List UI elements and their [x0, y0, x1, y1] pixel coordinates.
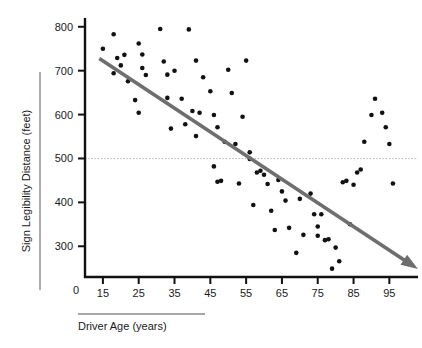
data-point [315, 224, 320, 229]
data-point [247, 150, 252, 155]
x-tick-label: 35 [168, 287, 180, 299]
data-point [244, 58, 249, 63]
data-point [219, 179, 224, 184]
data-point [272, 228, 277, 233]
data-point [140, 52, 145, 57]
chart-page: 300400500600700800 152535455565758595 0 … [0, 0, 422, 348]
data-point [101, 46, 106, 51]
x-tick-label: 15 [97, 287, 109, 299]
data-point [194, 134, 199, 139]
y-tick-label: 300 [55, 240, 73, 252]
data-point [283, 198, 288, 203]
data-point [111, 71, 116, 76]
data-point [230, 91, 235, 96]
y-tick-label: 800 [55, 21, 73, 33]
y-tick-label: 500 [55, 152, 73, 164]
data-point [265, 182, 270, 187]
data-point [136, 111, 141, 116]
data-point [298, 197, 303, 202]
data-point [119, 63, 124, 68]
data-point [358, 167, 363, 172]
data-point [158, 27, 163, 32]
x-axis-title: Driver Age (years) [78, 320, 167, 332]
origin-label: 0 [73, 284, 79, 296]
data-point [144, 73, 149, 78]
data-point [165, 96, 170, 101]
data-point [212, 164, 217, 169]
x-tick-label: 75 [312, 287, 324, 299]
data-point [111, 32, 116, 37]
data-point [391, 181, 396, 186]
data-point [387, 142, 392, 147]
data-point [197, 111, 202, 116]
x-tick-label: 25 [133, 287, 145, 299]
data-point [280, 189, 285, 194]
x-tick-label: 85 [347, 287, 359, 299]
data-point [337, 259, 342, 264]
data-point [226, 68, 231, 73]
data-point [362, 139, 367, 144]
y-tick-label: 700 [55, 65, 73, 77]
data-point [161, 59, 166, 64]
data-point [251, 203, 256, 208]
data-point [351, 183, 356, 188]
data-point [355, 170, 360, 175]
data-point [208, 89, 213, 94]
data-point [140, 66, 145, 71]
data-point [187, 27, 192, 32]
data-point [269, 208, 274, 213]
data-point [122, 53, 127, 58]
data-point [172, 68, 177, 73]
data-point [136, 41, 141, 46]
y-tick-label: 600 [55, 109, 73, 121]
y-axis-title: Sign Legibility Distance (feet) [20, 110, 32, 252]
data-point [240, 114, 245, 119]
data-point [215, 125, 220, 130]
data-point [258, 168, 263, 173]
data-point [212, 113, 217, 118]
data-point [169, 126, 174, 131]
x-tick-label: 55 [240, 287, 252, 299]
data-point [326, 237, 331, 242]
data-point [315, 233, 320, 238]
scatter-chart: 300400500600700800 152535455565758595 0 … [0, 0, 422, 348]
data-point [344, 179, 349, 184]
data-point [312, 212, 317, 217]
data-point [115, 56, 120, 61]
data-point [237, 181, 242, 186]
data-point [330, 266, 335, 271]
data-point [383, 125, 388, 130]
data-point [183, 122, 188, 127]
x-tick-label: 95 [383, 287, 395, 299]
data-point [201, 75, 206, 80]
data-point [333, 245, 338, 250]
x-tick-label: 45 [204, 287, 216, 299]
data-point [133, 98, 138, 103]
data-point [294, 251, 299, 256]
y-tick-label: 400 [55, 196, 73, 208]
data-point [165, 72, 170, 77]
data-point [380, 111, 385, 116]
data-point [287, 226, 292, 231]
data-point [301, 233, 306, 238]
data-point [319, 212, 324, 217]
data-point [373, 96, 378, 101]
x-tick-label: 65 [276, 287, 288, 299]
data-point [194, 58, 199, 63]
data-point [190, 109, 195, 114]
data-point [262, 172, 267, 177]
data-point [369, 113, 374, 118]
data-point [179, 96, 184, 101]
